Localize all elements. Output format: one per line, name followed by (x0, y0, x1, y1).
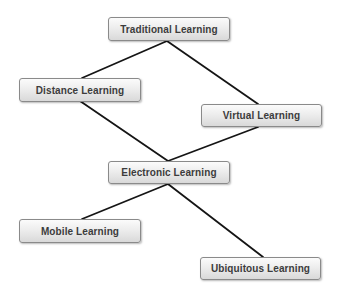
edge-traditional-virtual (167, 41, 258, 104)
node-label: Virtual Learning (223, 110, 301, 121)
edge-distance-electronic (80, 101, 168, 161)
node-label: Ubiquitous Learning (211, 263, 310, 274)
node-traditional-learning: Traditional Learning (108, 17, 230, 41)
node-label: Distance Learning (36, 85, 124, 96)
edge-electronic-ubiquitous (168, 184, 263, 257)
edge-traditional-distance (82, 41, 167, 78)
edge-virtual-electronic (168, 127, 258, 161)
node-electronic-learning: Electronic Learning (108, 161, 230, 184)
node-mobile-learning: Mobile Learning (19, 219, 141, 243)
connector-lines (0, 0, 337, 296)
node-virtual-learning: Virtual Learning (201, 104, 322, 127)
node-label: Traditional Learning (120, 24, 218, 35)
edge-electronic-mobile (82, 184, 168, 219)
node-distance-learning: Distance Learning (19, 78, 141, 102)
node-label: Mobile Learning (41, 226, 119, 237)
node-ubiquitous-learning: Ubiquitous Learning (200, 257, 321, 280)
node-label: Electronic Learning (121, 167, 216, 178)
